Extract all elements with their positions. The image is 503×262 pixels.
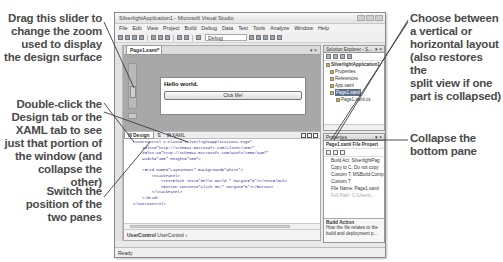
design-icon [128, 133, 132, 137]
menu-tools[interactable]: Tools [253, 24, 265, 33]
tree-item[interactable]: App.xaml [324, 82, 384, 89]
redo-icon[interactable] [184, 35, 189, 40]
solution-config-combo[interactable]: Debug [205, 34, 247, 41]
menu-build[interactable]: Build [185, 24, 197, 33]
folder-icon [330, 77, 334, 81]
breadcrumb-dropdown-icon[interactable]: › [185, 232, 187, 238]
page-canvas[interactable]: Hello world. Click Me! [160, 77, 306, 115]
solution-explorer-icon[interactable] [256, 35, 261, 40]
scrollbar-thumb[interactable] [130, 225, 290, 228]
categorized-icon[interactable] [326, 150, 331, 155]
tree-item[interactable]: SilverlightApplication1 [324, 61, 384, 68]
description-text: How the file relates to the [326, 225, 382, 231]
property-row[interactable]: Custom T [324, 178, 384, 185]
properties-icon[interactable] [263, 35, 268, 40]
view-code-icon[interactable] [347, 54, 352, 59]
save-all-icon[interactable] [139, 35, 144, 40]
undo-icon[interactable] [177, 35, 182, 40]
tree-item-label: Page1.xaml [335, 89, 361, 96]
find-icon[interactable] [249, 35, 254, 40]
callout-zoom-slider: Drag this slider to change the zoom used… [4, 12, 102, 64]
menu-help[interactable]: Help [318, 24, 329, 33]
xaml-tab[interactable]: XAML [164, 132, 189, 139]
property-row[interactable]: Copy to C: Do not copy [324, 164, 384, 171]
zoom-slider-thumb[interactable] [130, 86, 136, 98]
refresh-icon[interactable] [340, 54, 345, 59]
alphabetical-icon[interactable] [333, 150, 338, 155]
new-project-icon[interactable] [118, 35, 123, 40]
menu-bar: File Edit View Project Build Debug Data … [115, 24, 385, 33]
menu-project[interactable]: Project [163, 24, 180, 33]
property-row[interactable]: Build Act: SilverlightPag [324, 157, 384, 164]
paste-icon[interactable] [165, 35, 170, 40]
zoom-fit-button[interactable] [128, 113, 137, 119]
callout-line: a vertical or [410, 25, 502, 38]
menu-edit[interactable]: Edit [133, 24, 142, 33]
swap-icon: ⇅ [157, 132, 161, 138]
callout-collapse: Collapse the bottom pane [410, 132, 502, 158]
tree-item-selected[interactable]: Page1.xaml [324, 89, 384, 96]
menu-debug[interactable]: Debug [201, 24, 217, 33]
menu-test[interactable]: Test [238, 24, 248, 33]
close-document-icon[interactable]: ▾ × [310, 47, 317, 53]
object-browser-icon[interactable] [277, 35, 282, 40]
standard-toolbar: Debug [115, 33, 385, 43]
horizontal-split-button[interactable] [307, 133, 312, 138]
xaml-editor[interactable]: <UserControl x:Class="SilverlightApplica… [124, 139, 320, 223]
callout-line: horizontal layout [410, 38, 502, 51]
menu-file[interactable]: File [119, 24, 128, 33]
collapse-pane-button[interactable] [313, 133, 318, 138]
menu-analyze[interactable]: Analyze [270, 24, 289, 33]
toolbox-icon[interactable] [270, 35, 275, 40]
show-all-files-icon[interactable] [333, 54, 338, 59]
tree-item[interactable]: References [324, 75, 384, 82]
copy-icon[interactable] [158, 35, 163, 40]
hello-textblock[interactable]: Hello world. [164, 81, 198, 87]
solution-explorer-scrollbar[interactable] [324, 124, 384, 130]
properties-window: Page1.xaml File Propert Build Act: Silve… [323, 141, 385, 243]
panel-controls[interactable]: ▾ × [375, 46, 382, 53]
cut-icon[interactable] [151, 35, 156, 40]
toolbar-separator [192, 35, 193, 41]
callout-line: used to display [4, 38, 102, 51]
zoom-slider[interactable] [128, 63, 137, 109]
add-item-icon[interactable] [125, 35, 130, 40]
tree-item-label: SilverlightApplication1 [331, 61, 380, 68]
property-row[interactable]: Custom T: MSBuild:Comp [324, 171, 384, 178]
design-surface[interactable]: Hello world. Click Me! [124, 55, 320, 131]
tree-item[interactable]: Page1.xaml.cs [324, 96, 384, 103]
menu-window[interactable]: Window [294, 24, 313, 33]
properties-object-selector[interactable]: Page1.xaml File Propert [324, 141, 384, 149]
cs-file-icon [336, 98, 340, 102]
start-debugging-icon[interactable] [196, 35, 201, 40]
breadcrumb-active[interactable]: UserControl [127, 232, 156, 238]
tree-item-label: Page1.xaml.cs [341, 96, 371, 103]
minimize-button[interactable] [357, 15, 365, 21]
callout-line: Double-click the [4, 98, 102, 111]
properties-icon[interactable] [326, 54, 331, 59]
close-button[interactable] [375, 15, 383, 21]
maximize-button[interactable] [366, 15, 374, 21]
swap-panes-button[interactable]: ⇅ [154, 132, 164, 139]
menu-data[interactable]: Data [222, 24, 233, 33]
right-panels: Solution Explorer - S... ▾ × Silverlight… [323, 45, 385, 241]
solution-explorer-title: Solution Explorer - S... [326, 47, 372, 52]
property-row[interactable]: Full Path: C:\Users\... [324, 192, 384, 199]
property-pages-icon[interactable] [340, 150, 345, 155]
properties-title: Properties [326, 135, 347, 140]
tree-item[interactable]: Properties [324, 68, 384, 75]
toolbox-strip[interactable] [115, 45, 123, 241]
document-tab[interactable]: Page1.xaml* [126, 45, 162, 54]
breadcrumb-item[interactable]: UserControl [157, 232, 184, 238]
design-tab[interactable]: Design [124, 132, 154, 139]
callout-line: bottom pane [410, 145, 502, 158]
property-row[interactable]: File Name: Page1.xaml [324, 185, 384, 192]
save-icon[interactable] [132, 35, 137, 40]
solution-explorer-header: Solution Explorer - S... ▾ × [323, 45, 385, 53]
menu-view[interactable]: View [147, 24, 158, 33]
visual-studio-window: SilverlightApplication1 - Microsoft Visu… [114, 12, 386, 258]
click-me-button[interactable]: Click Me! [164, 91, 302, 100]
panel-controls[interactable]: ▾ × [375, 134, 382, 141]
vertical-split-button[interactable] [301, 133, 306, 138]
properties-target-label: Page1.xaml File Propert [326, 142, 378, 147]
